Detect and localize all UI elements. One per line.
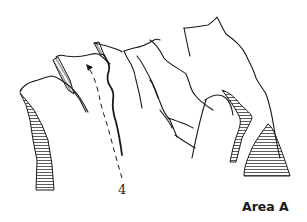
route-number-label: 4 <box>118 182 126 197</box>
left-buttress <box>20 76 88 190</box>
center-left-block <box>53 53 110 112</box>
right-gully <box>222 90 290 176</box>
area-label: Area A <box>242 199 289 214</box>
route-arrow-icon <box>86 64 93 71</box>
central-pillar <box>94 42 122 155</box>
topo-drawing <box>0 0 307 222</box>
